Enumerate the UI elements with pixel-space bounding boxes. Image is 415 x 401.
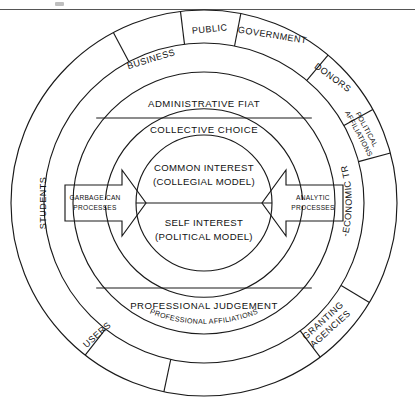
- outer-label-donors: DONORS: [313, 61, 353, 94]
- arrow-label-garbage-can-processes: PROCESSES: [73, 204, 117, 211]
- arrow-label-analytic-processes: PROCESSES: [291, 204, 335, 211]
- band-label-collective-choice: COLLECTIVE CHOICE: [150, 124, 258, 135]
- outer-label-students: STUDENTS: [38, 177, 48, 230]
- diagram-canvas: STUDENTS BUSINESS PUBLIC GOVERNMENT DONO…: [0, 0, 415, 401]
- circular-diagram: STUDENTS BUSINESS PUBLIC GOVERNMENT DONO…: [0, 0, 415, 401]
- band-label-professional-judgement: PROFESSIONAL JUDGEMENT: [130, 300, 278, 311]
- page-artifact-smudge: [55, 2, 64, 6]
- band-label-administrative-fiat: ADMINISTRATIVE FIAT: [148, 98, 260, 109]
- core-label-self-interest: SELF INTEREST: [165, 217, 244, 228]
- outer-label-government: GOVERNMENT: [237, 25, 307, 46]
- arrow-label-analytic: ANALYTIC: [296, 194, 330, 201]
- core-label-collegial-model: (COLLEGIAL MODEL): [153, 176, 255, 187]
- arrow-label-garbage-can: GARBAGE CAN: [69, 194, 120, 201]
- core-label-political-model: (POLITICAL MODEL): [155, 231, 253, 242]
- core-label-common-interest: COMMON INTEREST: [154, 162, 254, 173]
- garbage-can-processes-arrow: [65, 170, 146, 236]
- analytic-processes-arrow: [262, 170, 343, 236]
- outer-label-business: BUSINESS: [126, 47, 176, 71]
- outer-label-political-affiliations: POLITICAL AFFILIATIONS: [343, 105, 382, 158]
- outer-label-users: USERS: [81, 320, 113, 350]
- outer-label-public: PUBLIC: [191, 22, 227, 36]
